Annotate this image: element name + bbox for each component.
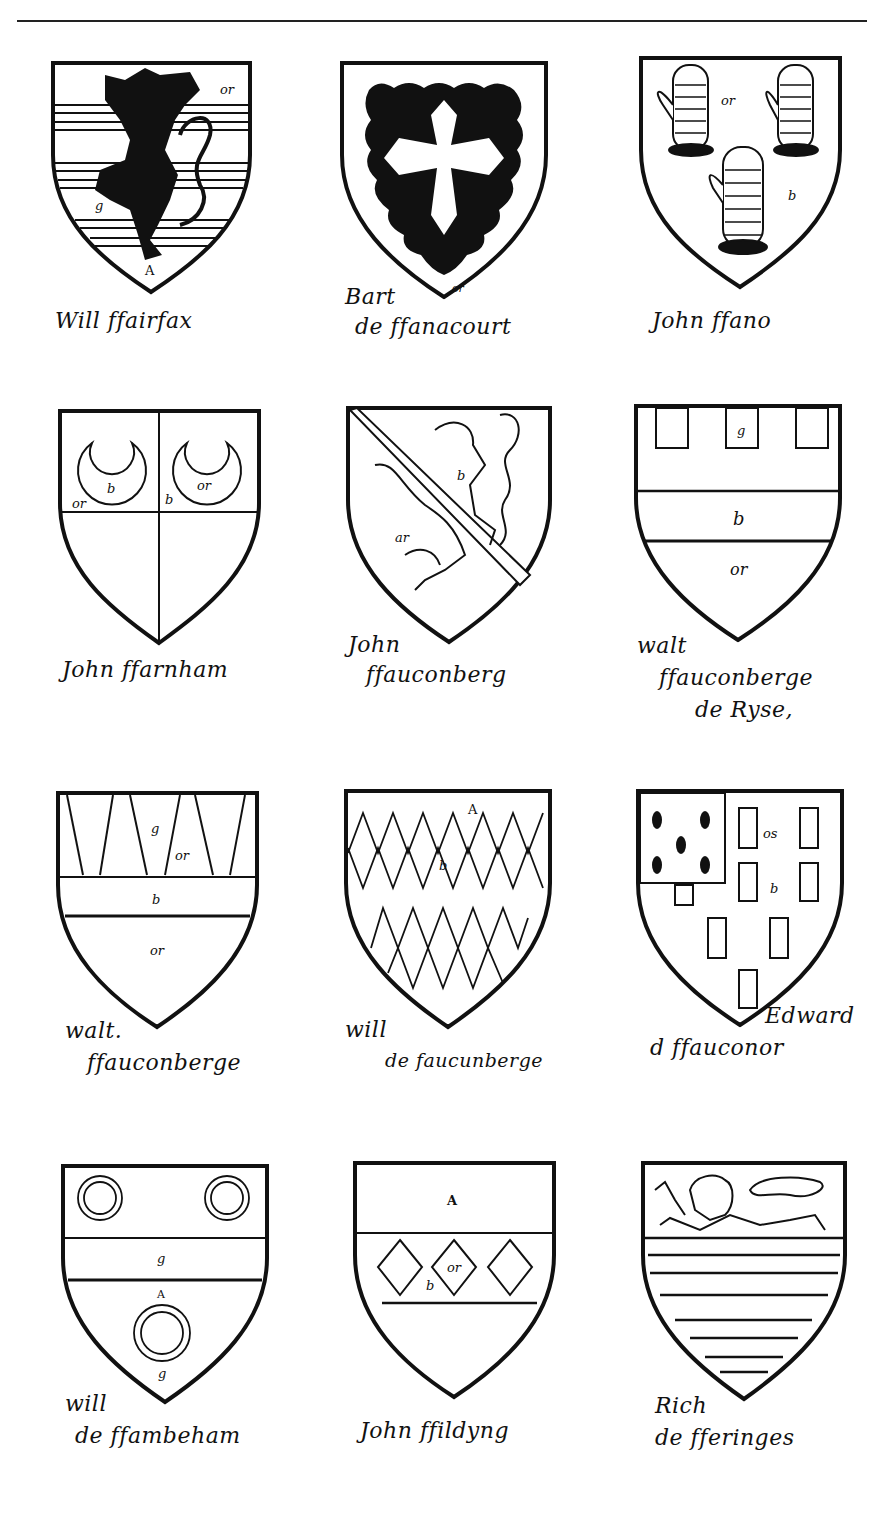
svg-text:A: A <box>156 1288 166 1301</box>
svg-text:b: b <box>788 188 796 203</box>
caption-fairfax: Will ffairfax <box>55 308 192 333</box>
caption-fano: John ffano <box>652 308 771 333</box>
shield-fambeham: g A g <box>60 1163 270 1405</box>
svg-text:or: or <box>220 82 235 97</box>
svg-text:b: b <box>107 481 115 496</box>
shield-farnham: b or or b <box>57 408 262 646</box>
svg-text:b: b <box>770 881 778 896</box>
caption-fanacourt: Bart de ffanacourt <box>345 282 511 342</box>
svg-text:b: b <box>426 1278 434 1293</box>
svg-text:b: b <box>457 468 465 483</box>
svg-text:os: os <box>763 826 778 841</box>
svg-text:g: g <box>158 1366 166 1381</box>
svg-text:b: b <box>165 492 173 507</box>
svg-text:or: or <box>721 93 736 108</box>
svg-text:or: or <box>72 496 87 511</box>
caption-farnham: John ffarnham <box>62 657 228 682</box>
svg-text:A: A <box>144 263 155 278</box>
shield-fauconer-edward: os b <box>635 788 845 1028</box>
svg-text:or: or <box>197 478 212 493</box>
svg-text:g: g <box>151 821 159 836</box>
caption-fauconberge-walt: walt. ffauconberge <box>65 1015 241 1079</box>
shield-fauconberge-walt: g or b or <box>55 790 260 1030</box>
svg-text:b: b <box>439 858 447 873</box>
shield-fano: or b <box>638 55 843 290</box>
caption-feringes: Rich de fferinges <box>655 1390 795 1454</box>
svg-text:b: b <box>152 892 160 907</box>
svg-text:or: or <box>175 848 190 863</box>
svg-text:g: g <box>95 198 103 213</box>
svg-text:g: g <box>157 1251 165 1266</box>
caption-fauconberg-john: John ffauconberg <box>348 630 507 690</box>
svg-text:A: A <box>467 802 478 817</box>
caption-fauconer-edward: Edward d ffauconor <box>650 1000 855 1064</box>
svg-text:A: A <box>446 1193 458 1208</box>
svg-text:g: g <box>737 423 745 438</box>
caption-faucunberge-will: will de faucunberge <box>345 1015 543 1075</box>
shield-filding: A or b <box>352 1160 557 1400</box>
svg-text:b: b <box>733 508 745 529</box>
svg-text:or: or <box>447 1260 462 1275</box>
shield-fauconberg-john: b ar <box>345 405 553 645</box>
top-rule <box>17 20 867 22</box>
shield-fauconberge-rise: g b or <box>633 403 843 643</box>
caption-fambeham: will de ffambeham <box>65 1388 241 1452</box>
svg-text:or: or <box>150 943 165 958</box>
caption-fauconberge-rise: walt ffauconberge de Ryse, <box>637 630 813 726</box>
svg-text:ar: ar <box>395 530 410 545</box>
caption-filding: John ffildyng <box>360 1418 509 1443</box>
shield-feringes <box>640 1160 848 1402</box>
svg-text:or: or <box>730 560 749 579</box>
shield-faucunberge-will: b A <box>343 788 553 1030</box>
shield-fairfax: or g A <box>50 60 255 295</box>
shield-fanacourt: or <box>339 60 549 300</box>
